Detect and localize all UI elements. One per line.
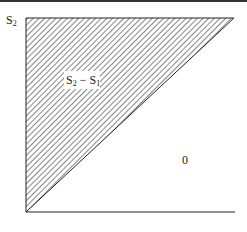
lower-region-label: 0 [182, 154, 188, 166]
diagram-canvas [0, 0, 247, 232]
y-axis-label: S2 [6, 14, 17, 28]
upper-region-label: S2 − S1 [66, 74, 100, 88]
